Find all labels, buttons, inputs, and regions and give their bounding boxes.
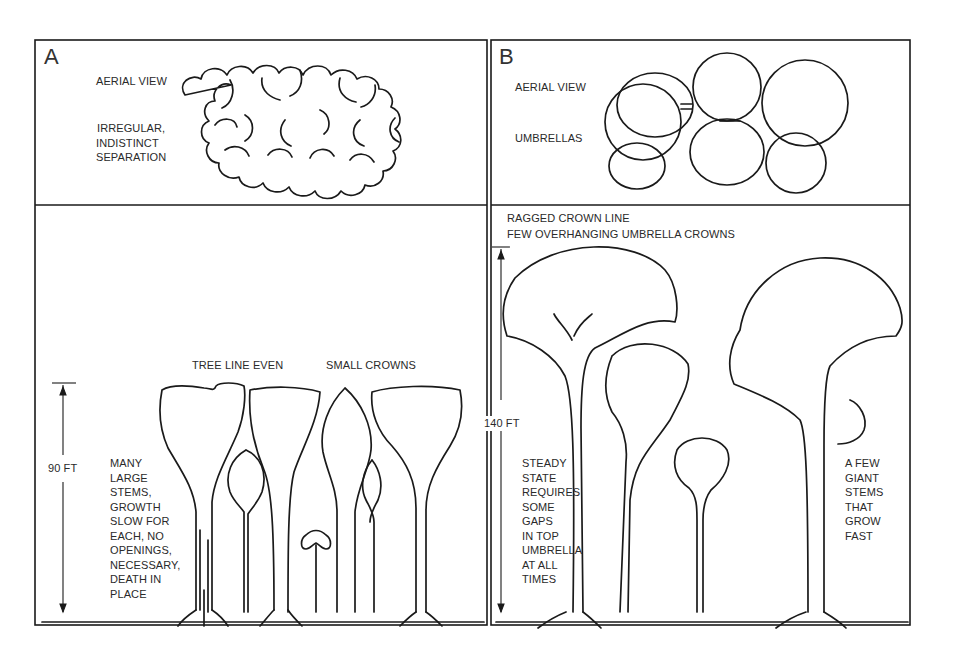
forest-structure-diagram: A AERIAL VIEW IRREGULAR, INDISTINCT SEPA… — [0, 0, 955, 659]
panel-a-letter: A — [44, 44, 59, 70]
panel-a-height-arrow — [52, 383, 76, 612]
panel-a-aerial-description: IRREGULAR, INDISTINCT SEPARATION — [96, 121, 166, 165]
panel-b-heading-1: RAGGED CROWN LINE — [507, 211, 630, 226]
panel-a-label-small-crowns: SMALL CROWNS — [326, 358, 416, 373]
panel-a-label-tree-line: TREE LINE EVEN — [192, 358, 283, 373]
panel-a-aerial-title: AERIAL VIEW — [96, 74, 167, 89]
panel-b-height-label: 140 FT — [484, 416, 519, 431]
panel-b-aerial-umbrellas: UMBRELLAS — [515, 131, 583, 146]
panel-a-aerial-cloud-canopy — [183, 66, 401, 199]
panel-b-heading-2: FEW OVERHANGING UMBRELLA CROWNS — [507, 227, 735, 242]
panel-a-profile-trees — [42, 383, 484, 626]
panel-b-notes-left: STEADY STATE REQUIRES SOME GAPS IN TOP U… — [522, 456, 582, 587]
panel-a-notes: MANY LARGE STEMS, GROWTH SLOW FOR EACH, … — [110, 456, 180, 601]
panel-b-aerial-title: AERIAL VIEW — [515, 80, 586, 95]
panel-b-aerial-umbrella-circles — [605, 53, 848, 193]
panel-a-height-label: 90 FT — [48, 461, 77, 476]
panel-b-notes-right: A FEW GIANT STEMS THAT GROW FAST — [845, 456, 883, 543]
panel-b-letter: B — [499, 44, 514, 70]
